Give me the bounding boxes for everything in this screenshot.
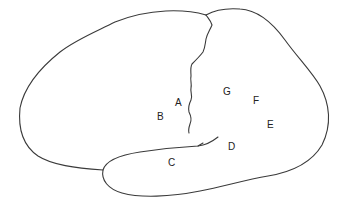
label-e: E [267,119,274,130]
label-d: D [228,141,235,152]
frontal-lobe-outline [20,11,206,170]
central-sulcus [189,15,212,133]
hemisphere-right-outline [103,9,329,196]
label-c: C [168,157,175,168]
label-b: B [157,111,164,122]
brain-diagram: A B C D E F G [0,0,351,206]
label-a: A [175,97,182,108]
label-f: F [253,95,259,106]
label-g: G [223,86,231,97]
